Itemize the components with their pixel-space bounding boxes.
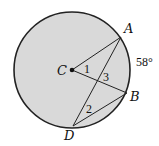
angle-1-label: 1 — [84, 62, 90, 76]
angle-3-label: 3 — [103, 70, 109, 84]
label-D: D — [63, 128, 75, 143]
label-A: A — [123, 21, 133, 36]
center-point — [70, 68, 75, 73]
angle-2-label: 2 — [86, 102, 92, 116]
label-B: B — [129, 89, 140, 104]
arc-measure-label: 58° — [136, 55, 153, 69]
label-C: C — [57, 63, 67, 78]
circle-diagram: A B C D 58° 1 3 2 — [0, 0, 159, 146]
